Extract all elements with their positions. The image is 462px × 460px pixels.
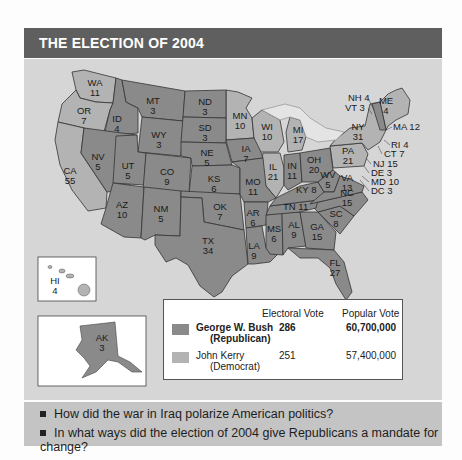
question-item: How did the war in Iraq polarize America… bbox=[40, 407, 333, 421]
state-votes-hi: 4 bbox=[52, 285, 57, 296]
candidate-kerry-name: John Kerry bbox=[196, 350, 244, 361]
candidate-kerry-party: (Democrat) bbox=[210, 361, 260, 372]
svg-text:MN10: MN10 bbox=[233, 110, 248, 131]
svg-text:WI10: WI10 bbox=[261, 121, 273, 142]
review-questions: How did the war in Iraq polarize America… bbox=[24, 402, 442, 446]
svg-text:FL27: FL27 bbox=[329, 257, 340, 278]
bush-electoral-vote: 286 bbox=[279, 322, 296, 333]
svg-text:OH20: OH20 bbox=[307, 154, 321, 175]
democrat-swatch bbox=[172, 352, 189, 363]
svg-text:TN 11: TN 11 bbox=[283, 201, 308, 212]
state-fl bbox=[288, 248, 352, 300]
svg-text:TX34: TX34 bbox=[202, 235, 215, 256]
svg-text:MI17: MI17 bbox=[293, 124, 304, 145]
legend-popular-header: Popular Vote bbox=[342, 308, 399, 319]
bullet-square-icon bbox=[40, 411, 46, 417]
kerry-popular-vote: 57,400,000 bbox=[346, 350, 396, 361]
svg-text:NC15: NC15 bbox=[340, 187, 354, 208]
svg-text:IL21: IL21 bbox=[268, 161, 279, 182]
svg-text:CA55: CA55 bbox=[63, 165, 77, 186]
bush-popular-vote: 60,700,000 bbox=[346, 322, 396, 333]
republican-swatch bbox=[172, 324, 189, 335]
svg-text:AZ10: AZ10 bbox=[116, 199, 128, 220]
svg-text:PA21: PA21 bbox=[342, 145, 355, 166]
question-item: In what ways did the election of 2004 gi… bbox=[40, 426, 442, 454]
svg-text:NY31: NY31 bbox=[351, 121, 365, 142]
state-votes-ak: 3 bbox=[99, 342, 104, 353]
candidate-bush-party: (Republican) bbox=[210, 333, 271, 344]
bullet-square-icon bbox=[40, 430, 46, 436]
legend-box: Electoral Vote Popular Vote George W. Bu… bbox=[163, 299, 403, 380]
svg-text:DC 3: DC 3 bbox=[371, 185, 393, 196]
us-election-map: HI 4 AK 3 WA11 OR7 CA55 ID4 NV5 MT3 WY3 … bbox=[0, 0, 462, 460]
svg-text:KY 8: KY 8 bbox=[296, 184, 316, 195]
svg-text:IN11: IN11 bbox=[287, 160, 297, 181]
candidate-bush-name: George W. Bush bbox=[196, 322, 273, 333]
svg-text:VT 3: VT 3 bbox=[345, 102, 365, 113]
kerry-electoral-vote: 251 bbox=[279, 350, 296, 361]
legend-electoral-header: Electoral Vote bbox=[262, 308, 324, 319]
svg-text:MA 12: MA 12 bbox=[393, 121, 420, 132]
